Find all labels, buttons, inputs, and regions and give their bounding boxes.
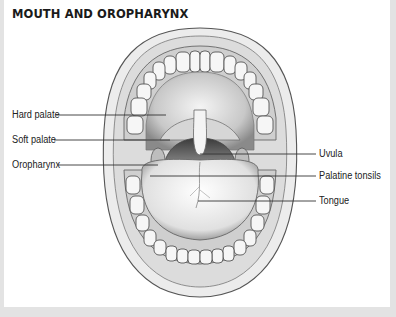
label-hard-palate: Hard palate (12, 109, 60, 120)
label-soft-palate: Soft palate (12, 134, 56, 145)
label-palatine-tonsils: Palatine tonsils (319, 170, 381, 181)
label-uvula: Uvula (319, 148, 343, 159)
label-oropharynx: Oropharynx (12, 159, 60, 170)
uvula (194, 110, 207, 155)
label-tongue: Tongue (319, 195, 349, 206)
